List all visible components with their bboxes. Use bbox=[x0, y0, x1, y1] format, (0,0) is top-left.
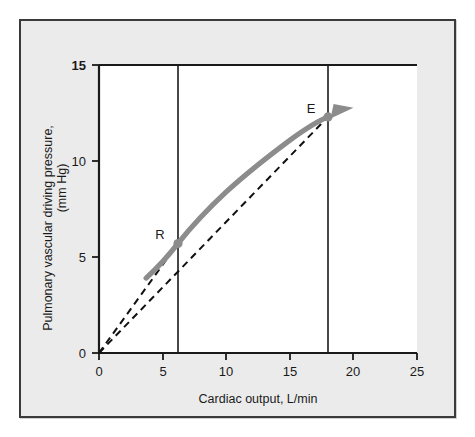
annotation-label-exercise: E bbox=[307, 101, 316, 116]
y-axis-tick-labels: 0 5 10 15 bbox=[72, 58, 86, 361]
x-tick-label-20: 20 bbox=[346, 364, 360, 379]
x-axis-title: Cardiac output, L/min bbox=[199, 392, 318, 406]
x-tick-label-10: 10 bbox=[219, 364, 233, 379]
y-axis-title: Pulmonary vascular driving pressure, (mm… bbox=[41, 125, 69, 331]
y-axis-title-line2: (mm Hg) bbox=[55, 164, 69, 213]
x-tick-label-15: 15 bbox=[283, 364, 297, 379]
plot-area-background bbox=[99, 65, 417, 353]
y-tick-label-15: 15 bbox=[72, 58, 86, 73]
chart-canvas: 0 5 10 15 0 5 10 15 20 25 bbox=[0, 0, 475, 437]
y-axis-title-line1: Pulmonary vascular driving pressure, bbox=[41, 125, 55, 331]
data-point-marker-exercise bbox=[323, 112, 332, 121]
data-point-marker-rest bbox=[173, 239, 182, 248]
y-tick-label-5: 5 bbox=[79, 250, 86, 265]
y-tick-label-10: 10 bbox=[72, 154, 86, 169]
x-tick-label-5: 5 bbox=[159, 364, 166, 379]
x-tick-label-0: 0 bbox=[95, 364, 102, 379]
x-tick-label-25: 25 bbox=[410, 364, 424, 379]
x-axis-tick-labels: 0 5 10 15 20 25 bbox=[95, 364, 424, 379]
figure-root: 0 5 10 15 0 5 10 15 20 25 bbox=[0, 0, 475, 437]
y-tick-label-0: 0 bbox=[79, 346, 86, 361]
annotation-label-rest: R bbox=[155, 227, 164, 242]
